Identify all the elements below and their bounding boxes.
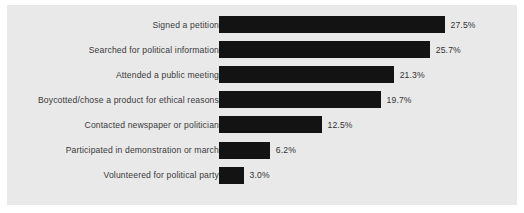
bar-value-label: 21.3%	[400, 70, 425, 80]
bar-row: Participated in demonstration or march6.…	[7, 142, 517, 159]
bar-fill	[219, 167, 244, 184]
bar-track: 19.7%	[219, 91, 517, 108]
bar-row: Volunteered for political party3.0%	[7, 167, 517, 184]
bar-track: 12.5%	[219, 116, 517, 133]
bar-category-label: Attended a public meeting	[116, 70, 219, 80]
bar-fill	[219, 142, 270, 159]
bar-track: 21.3%	[219, 66, 517, 83]
bar-row: Attended a public meeting21.3%	[7, 66, 517, 83]
bar-category-label: Contacted newspaper or politician	[85, 120, 219, 130]
bar-row: Searched for political information25.7%	[7, 41, 517, 58]
bar-fill	[219, 66, 394, 83]
bar-category-label: Boycotted/chose a product for ethical re…	[38, 95, 219, 105]
bar-category-label: Participated in demonstration or march	[66, 145, 219, 155]
bar-track: 6.2%	[219, 142, 517, 159]
bar-fill	[219, 16, 445, 33]
bar-track: 25.7%	[219, 41, 517, 58]
bar-fill	[219, 41, 430, 58]
chart-plot-panel: Signed a petition27.5%Searched for polit…	[7, 5, 517, 205]
bar-value-label: 3.0%	[250, 170, 270, 180]
bar-category-label: Signed a petition	[152, 20, 219, 30]
bar-value-label: 19.7%	[387, 95, 412, 105]
bar-track: 3.0%	[219, 167, 517, 184]
bar-rows-container: Signed a petition27.5%Searched for polit…	[7, 5, 517, 205]
bar-row: Contacted newspaper or politician12.5%	[7, 116, 517, 133]
bar-row: Boycotted/chose a product for ethical re…	[7, 91, 517, 108]
bar-value-label: 12.5%	[328, 120, 353, 130]
bar-value-label: 27.5%	[451, 20, 476, 30]
bar-category-label: Searched for political information	[89, 45, 219, 55]
bar-value-label: 25.7%	[436, 45, 461, 55]
bar-value-label: 6.2%	[276, 145, 296, 155]
bar-row: Signed a petition27.5%	[7, 16, 517, 33]
chart-figure: Signed a petition27.5%Searched for polit…	[0, 0, 524, 213]
bar-fill	[219, 91, 381, 108]
bar-category-label: Volunteered for political party	[104, 170, 219, 180]
bar-fill	[219, 116, 322, 133]
bar-track: 27.5%	[219, 16, 517, 33]
